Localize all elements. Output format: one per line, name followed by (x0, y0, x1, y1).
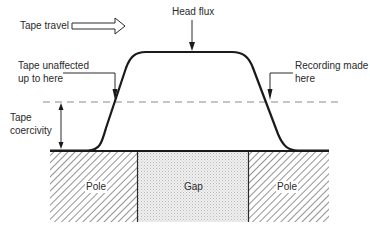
tape-unaffected-label-line1: Tape unaffected (18, 59, 89, 72)
recording-made-pointer-icon (268, 73, 294, 100)
tape-travel-label: Tape travel (20, 19, 69, 32)
head-flux-label: Head flux (172, 5, 214, 18)
tape-coercivity-label-line1: Tape (10, 111, 32, 124)
gap-label: Gap (183, 181, 204, 193)
head-flux-diagram: Tape travel Head flux Tape unaffected up… (0, 0, 370, 233)
head-flux-arrow-icon (189, 20, 195, 51)
diagram-canvas (0, 0, 370, 233)
head-flux-curve (50, 52, 329, 151)
recording-made-label-line1: Recording made (295, 59, 368, 72)
tape-unaffected-label-line2: up to here (18, 72, 63, 85)
left-pole-label: Pole (85, 181, 107, 193)
tape-unaffected-pointer-icon (63, 73, 118, 100)
right-pole-label: Pole (276, 181, 298, 193)
tape-coercivity-label-line2: coercivity (10, 124, 52, 137)
tape-travel-arrow-icon (72, 18, 125, 34)
recording-made-label-line2: here (295, 72, 315, 85)
tape-coercivity-dimension-icon (59, 103, 64, 149)
